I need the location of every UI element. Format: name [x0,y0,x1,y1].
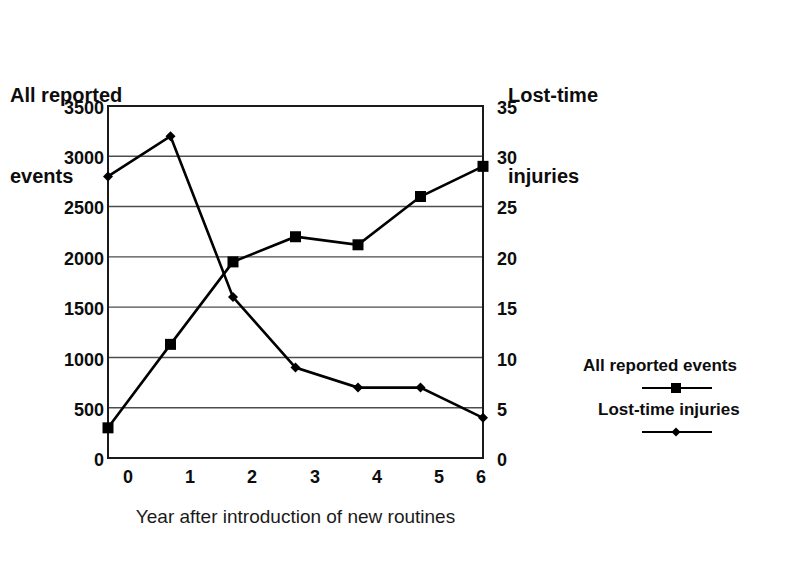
legend-key-lost-time-injuries [640,425,714,439]
series-lost-time-injuries-polyline [108,136,483,418]
right-tick-label-15: 15 [497,300,567,318]
right-tick-label-30: 30 [497,149,567,167]
series-all-reported-events-marker [478,161,489,172]
x-tick-label-4: 4 [357,468,397,486]
x-tick-label-1: 1 [170,468,210,486]
right-tick-label-5: 5 [497,401,567,419]
series-all-reported-events [103,161,489,433]
left-tick-label-500: 500 [34,401,104,419]
series-lost-time-injuries-marker [228,292,238,302]
x-tick-label-3: 3 [295,468,335,486]
legend-label-all-reported-events: All reported events [583,356,737,376]
series-lost-time-injuries-marker [353,383,363,393]
series-all-reported-events-marker [290,231,301,242]
series-all-reported-events-marker [353,239,364,250]
x-tick-label-6: 6 [461,468,501,486]
plot-frame [108,106,483,458]
gridlines [108,156,483,407]
legend-key-all-reported-events [640,381,714,395]
left-tick-label-1500: 1500 [34,300,104,318]
legend-square-marker-icon [671,383,681,393]
left-tick-label-0: 0 [34,451,104,469]
series-all-reported-events-marker [228,256,239,267]
right-tick-label-10: 10 [497,351,567,369]
chart-figure: All reported events Lost-time injuries 3… [0,0,786,564]
left-tick-label-2000: 2000 [34,250,104,268]
legend-diamond-marker-icon [672,428,681,437]
right-tick-label-20: 20 [497,250,567,268]
left-tick-label-1000: 1000 [34,351,104,369]
x-tick-label-2: 2 [232,468,272,486]
series-all-reported-events-marker [165,339,176,350]
series-lost-time-injuries-marker [416,383,426,393]
left-tick-label-3000: 3000 [34,149,104,167]
legend-label-lost-time-injuries: Lost-time injuries [598,400,740,420]
x-tick-label-5: 5 [419,468,459,486]
right-tick-label-35: 35 [497,99,567,117]
series-lost-time-injuries-marker [478,413,488,423]
left-tick-label-3500: 3500 [34,99,104,117]
series-all-reported-events-marker [415,191,426,202]
right-tick-label-25: 25 [497,199,567,217]
series-lost-time-injuries [103,131,488,423]
series-lost-time-injuries-marker [291,362,301,372]
right-tick-label-0: 0 [497,451,567,469]
series-all-reported-events-marker [103,422,114,433]
right-axis-title-line2: injuries [508,163,598,190]
series-all-reported-events-polyline [108,166,483,428]
x-axis-title: Year after introduction of new routines [108,505,483,529]
series-lost-time-injuries-marker [166,131,176,141]
x-tick-label-0: 0 [108,468,148,486]
left-tick-label-2500: 2500 [34,199,104,217]
